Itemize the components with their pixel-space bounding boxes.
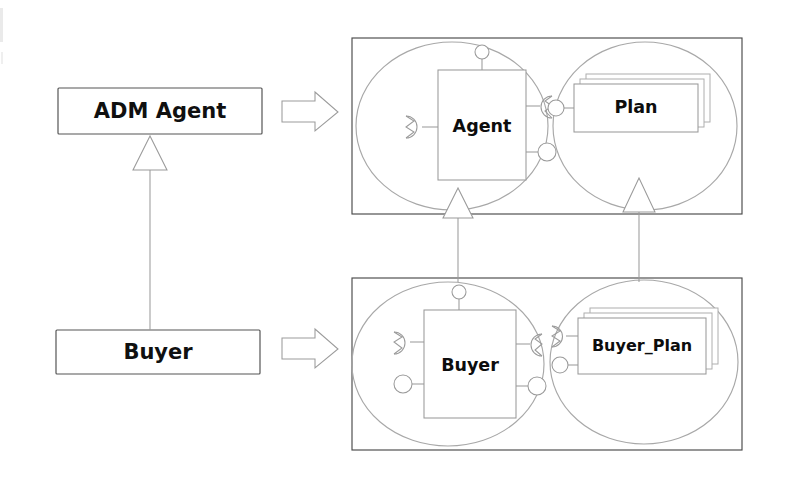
adm-agent-class-label: ADM Agent	[94, 99, 226, 123]
refinement-arrow-buyer	[282, 329, 338, 368]
agent-left-socket-port-icon	[406, 116, 438, 138]
plan-part[interactable]: Plan	[548, 74, 710, 132]
uml-refinement-diagram: ADM Agent Buyer	[0, 0, 788, 489]
buyer-plan-part-label: Buyer_Plan	[592, 336, 692, 355]
buyer-right-socket-port-icon	[516, 334, 542, 356]
refinement-arrow-agent	[282, 92, 338, 131]
buyer-top-ball-port-icon	[452, 285, 466, 310]
buyer-plan-part[interactable]: Buyer_Plan	[552, 308, 718, 374]
generalization-buyer-part-to-agent-part	[443, 188, 473, 282]
buyer-class-label: Buyer	[123, 340, 193, 364]
adm-agent-class-box[interactable]: ADM Agent	[58, 88, 262, 134]
buyer-right-ball-port-icon	[516, 377, 546, 395]
buyer-left-ball-port-icon	[394, 375, 424, 393]
diagram-canvas: ADM Agent Buyer	[0, 0, 788, 489]
agent-top-ball-port-icon	[475, 45, 489, 70]
scan-artifact	[0, 8, 3, 64]
agent-right-ball-port-icon	[526, 143, 556, 161]
plan-left-ball-port-icon	[548, 100, 574, 116]
buyer-part[interactable]: Buyer	[394, 285, 546, 418]
buyer-part-label: Buyer	[441, 355, 499, 375]
generalization-buyer-to-adm-agent	[133, 136, 167, 330]
buyer-plan-left-ball-port-icon	[552, 357, 578, 373]
plan-part-label: Plan	[614, 97, 657, 117]
buyer-class-box[interactable]: Buyer	[56, 330, 260, 374]
agent-part[interactable]: Agent	[406, 45, 556, 180]
generalization-buyer-plan-to-plan	[623, 178, 655, 282]
buyer-plan-left-socket-port-icon	[552, 326, 578, 347]
buyer-left-socket-port-icon	[394, 332, 424, 354]
agent-part-label: Agent	[453, 116, 512, 136]
